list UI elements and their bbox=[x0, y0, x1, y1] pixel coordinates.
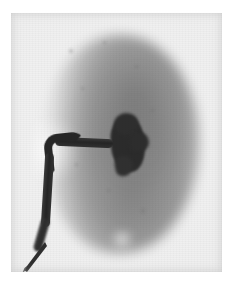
film-panel bbox=[11, 13, 222, 272]
film-grain bbox=[11, 13, 222, 272]
radiograph-viewer bbox=[0, 0, 239, 284]
